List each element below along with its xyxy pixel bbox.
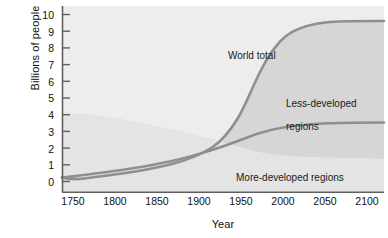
x-tick-label-1900: 1900 [176,196,222,207]
x-tick-label-1750: 1750 [50,196,96,207]
annotation-less-developed: Less-developed regions [286,86,357,144]
x-axis-title-wrapper: Year [62,214,384,232]
x-tick-label-1850: 1850 [134,196,180,207]
y-axis-title: Billions of people [29,6,41,91]
y-tick-label-0: 0 [32,177,54,187]
x-tick-label-1950: 1950 [218,196,264,207]
population-growth-chart: 10 9 8 7 6 5 4 3 2 1 0 1750 1800 1850 19… [0,0,388,238]
x-tick-label-2050: 2050 [302,196,348,207]
y-axis-title-wrapper: Billions of people [25,0,41,128]
y-tick-label-3: 3 [32,127,54,137]
x-tick-label-2000: 2000 [260,196,306,207]
annotation-less-developed-line2: regions [286,121,357,133]
y-tick-label-1: 1 [32,160,54,170]
x-axis-title: Year [212,218,235,230]
annotation-world-total: World total [228,50,276,62]
annotation-less-developed-line1: Less-developed [286,98,357,110]
x-tick-label-2100: 2100 [344,196,388,207]
annotation-more-developed: More-developed regions [236,172,344,184]
x-tick-label-1800: 1800 [92,196,138,207]
y-tick-label-2: 2 [32,144,54,154]
